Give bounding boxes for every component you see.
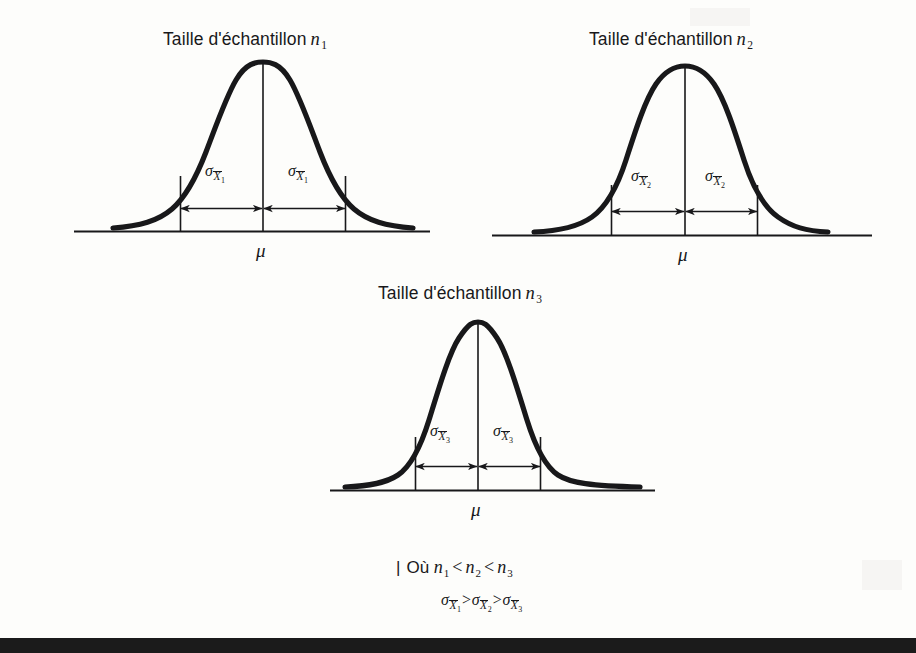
panel-2-sigma-right-subscript: X2: [713, 176, 725, 190]
footnote-rel-1: <: [449, 557, 465, 577]
panel-1-mu-label: μ: [256, 241, 266, 260]
footnote-sigma-rel-2: >: [492, 591, 503, 608]
footnote-sigma-1-index: 1: [456, 605, 461, 614]
panel-3-title-text: Taille d'échantillon: [378, 283, 522, 303]
panel-1-title: Taille d'échantillonn1: [163, 30, 327, 51]
footnote-sigma-1: σ: [441, 591, 449, 608]
panel-3-title-subscript: 3: [535, 293, 542, 305]
panel-3-title: Taille d'échantillonn3: [378, 284, 542, 305]
footnote-n3-sub: 3: [506, 567, 513, 579]
panel-2-title-variable: n: [733, 29, 746, 49]
panel-2-title-subscript: 2: [746, 39, 753, 51]
panel-3-sigma-right-symbol: σ: [493, 422, 501, 439]
scan-edge-band: [0, 638, 916, 653]
panel-1-title-subscript: 1: [320, 39, 327, 51]
figure-page: Taille d'échantillonn1 σX1 σX1 μ Taille …: [0, 0, 916, 653]
footnote-sigma-3: σ: [502, 591, 510, 608]
panel-1-sigma-right: σX1: [288, 163, 308, 185]
footnote-n2: n: [466, 557, 475, 577]
panel-2-sigma-left-symbol: σ: [631, 167, 639, 184]
panel-2-graphic: [492, 66, 872, 236]
panel-3-sigma-left-index: 3: [445, 436, 450, 445]
panel-2-title: Taille d'échantillonn2: [589, 30, 753, 51]
footnote-rel-2: <: [481, 557, 497, 577]
panel-1-sigma-right-index: 1: [303, 176, 308, 185]
footnote-line-1: |Où n1<n2<n3: [396, 558, 513, 579]
panel-3-sigma-left-subscript: X3: [438, 431, 450, 445]
panel-1-sigma-left-subscript: X1: [213, 171, 225, 185]
footnote-sigma-2-subscript: X2: [480, 600, 492, 614]
panel-1-sigma-right-subscript: X1: [296, 171, 308, 185]
footnote-sigma-3-subscript: X3: [510, 600, 522, 614]
panel-2-normal-curve: [534, 66, 828, 232]
footnote-ou: Où: [406, 558, 429, 577]
panel-3-sigma-left-symbol: σ: [430, 422, 438, 439]
panel-2-sigma-left: σX2: [631, 168, 651, 190]
panel-2-title-text: Taille d'échantillon: [589, 29, 733, 49]
panel-1-title-text: Taille d'échantillon: [163, 29, 307, 49]
panel-1-title-variable: n: [307, 29, 320, 49]
panel-2-sigma-right-symbol: σ: [705, 167, 713, 184]
footnote-sigma-1-subscript: X1: [449, 600, 461, 614]
footnote-sigma-2-index: 2: [487, 605, 492, 614]
panel-3-sigma-right: σX3: [493, 423, 513, 445]
footnote-sigma-rel-1: >: [461, 591, 472, 608]
panel-3-sigma-left: σX3: [430, 423, 450, 445]
panel-1-sigma-right-symbol: σ: [288, 162, 296, 179]
panel-2-mu-label: μ: [678, 245, 688, 264]
panel-1-sigma-left-symbol: σ: [205, 162, 213, 179]
footnote-sigma-3-var: X: [511, 599, 518, 611]
panel-2-sigma-right: σX2: [705, 168, 725, 190]
footnote-pipe: |: [396, 558, 406, 577]
panel-2-sigma-right-index: 2: [720, 181, 725, 190]
panel-2-sigma-left-index: 2: [646, 181, 651, 190]
footnote-n3: n: [497, 557, 506, 577]
panel-2-sigma-left-subscript: X2: [639, 176, 651, 190]
panel-1-sigma-left: σX1: [205, 163, 225, 185]
distribution-curves-svg: [0, 0, 916, 653]
footnote-sigma-3-index: 3: [518, 605, 523, 614]
panel-3-sigma-right-index: 3: [508, 436, 513, 445]
panel-3-sigma-right-subscript: X3: [501, 431, 513, 445]
panel-3-normal-curve: [345, 322, 640, 487]
panel-1-sigma-left-index: 1: [220, 176, 225, 185]
footnote-n1: n: [434, 557, 443, 577]
footnote-sigma-2: σ: [472, 591, 480, 608]
panel-3-mu-label: μ: [471, 500, 481, 519]
footnote-line-2: σX1>σX2>σX3: [441, 592, 522, 614]
panel-3-graphic: [330, 322, 655, 491]
panel-3-title-variable: n: [522, 283, 535, 303]
panel-1-graphic: [74, 62, 430, 232]
